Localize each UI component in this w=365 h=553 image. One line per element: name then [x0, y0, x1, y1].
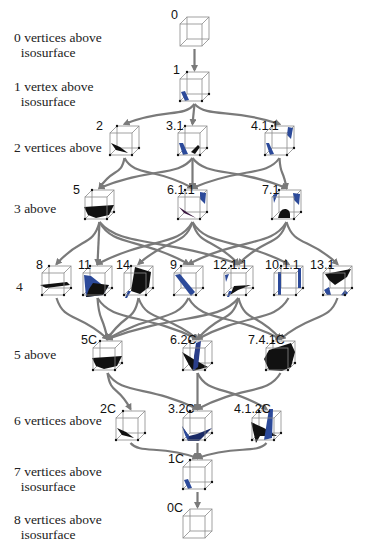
isosurface-patch [264, 343, 295, 371]
vertex-dot [211, 481, 213, 483]
vertex-dot [182, 488, 184, 490]
vertex-dot [206, 147, 208, 149]
vertex-dot [144, 432, 146, 434]
cube-depth-edge [196, 266, 203, 273]
vertex-dot [177, 218, 179, 220]
case-label-7.4.1C: 7.4.1C [248, 333, 285, 347]
cube-case-12.1.1: 12.1.1 [213, 258, 254, 297]
vertex-dot [293, 218, 295, 220]
cube-depth-edge [110, 126, 117, 133]
vertex-dot [199, 154, 201, 156]
vertex-dot [116, 125, 118, 127]
cube-depth-edge [180, 17, 187, 24]
isosurface-patch [278, 272, 281, 295]
row-label-r4: 4 [16, 279, 23, 294]
isosurface-patch [40, 282, 70, 288]
cube-case-1: 1 [173, 63, 210, 102]
vertex-dot [152, 287, 154, 289]
cube-case-4.1.2C: 4.1.2C [234, 402, 282, 443]
vertex-dot [202, 287, 204, 289]
vertex-dot [287, 369, 289, 371]
vertex-dot [145, 294, 147, 296]
cube-case-1C: 1C [168, 452, 213, 490]
cube-depth-edge [202, 17, 209, 24]
cube-case-3.1: 3.1 [166, 119, 208, 156]
arrow-1-to-2 [125, 104, 195, 124]
cube-depth-edge [183, 531, 190, 538]
vertex-dot [271, 218, 273, 220]
cube-depth-edge [42, 288, 49, 295]
isosurface-patch [125, 291, 131, 298]
row-label-r0: 0 vertices above isosurface [14, 30, 102, 60]
row-label-r7: 7 vertices above isosurface [14, 464, 102, 494]
cube-case-13.1: 13.1 [310, 258, 353, 296]
cube-depth-edge [85, 190, 92, 197]
isosurface-patch [179, 207, 196, 218]
vertex-dot [294, 362, 296, 364]
vertex-dot [115, 439, 117, 441]
vertex-dot [208, 93, 210, 95]
case-label-2: 2 [96, 119, 103, 133]
case-label-3.2C: 3.2C [168, 402, 194, 416]
vertex-dot [201, 100, 203, 102]
case-label-3.1: 3.1 [166, 119, 183, 133]
cube-depth-edge [274, 433, 281, 440]
vertex-dot [130, 265, 132, 267]
cube-case-4.1.1: 4.1.1 [251, 119, 295, 156]
arrow-4.1.2C-to-1C [198, 443, 267, 458]
cube-case-10.1.1: 10.1.1 [265, 258, 304, 296]
cube-case-6.1.1: 6.1.1 [167, 183, 208, 220]
cube-depth-edge [183, 509, 190, 516]
vertex-dot [113, 211, 115, 213]
vertex-dot [273, 294, 275, 296]
vertex-dot [273, 439, 275, 441]
cube-depth-edge [202, 72, 209, 79]
vertex-dot [189, 459, 191, 461]
arrow-13.1-to-7.4.1C [281, 298, 338, 339]
isosurface-patch [191, 145, 200, 154]
vertex-dot [322, 294, 324, 296]
vertex-dot [123, 294, 125, 296]
cube-depth-edge [205, 531, 212, 538]
cube-depth-edge [205, 341, 212, 348]
vertex-dot [137, 439, 139, 441]
vertex-dot [99, 340, 101, 342]
case-label-5: 5 [73, 183, 80, 197]
row-label-r8: 8 vertices above isosurface [14, 512, 102, 542]
cube-depth-edge [202, 39, 209, 46]
vertex-dot [204, 488, 206, 490]
vertex-dot [195, 294, 197, 296]
vertex-dot [82, 294, 84, 296]
vertex-dot [300, 211, 302, 213]
isosurface-patch [175, 274, 195, 296]
cube-depth-edge [180, 39, 187, 46]
vertex-dot [111, 287, 113, 289]
vertex-dot [179, 100, 181, 102]
cube-depth-edge [205, 509, 212, 516]
cube-depth-edge [115, 341, 122, 348]
cube-case-11: 11 [78, 258, 113, 297]
case-label-10.1.1: 10.1.1 [265, 258, 300, 272]
cube-depth-edge [200, 126, 207, 133]
cube-depth-edge [246, 288, 253, 295]
row-label-r3: 3 above [14, 201, 56, 216]
case-label-2C: 2C [100, 402, 116, 416]
cube-case-6.2C: 6.2C [170, 333, 213, 371]
vertex-dot [204, 439, 206, 441]
vertex-dot [92, 369, 94, 371]
cube-depth-edge [64, 288, 71, 295]
cube-depth-edge [132, 126, 139, 133]
cube-case-5: 5 [73, 183, 115, 220]
vertex-dot [245, 294, 247, 296]
isosurface-patch [200, 192, 206, 204]
row-label-r5: 5 above [14, 347, 56, 362]
vertex-dot [84, 218, 86, 220]
cube-case-2: 2 [96, 119, 140, 156]
vertex-dot [302, 287, 304, 289]
vertex-dot [41, 294, 43, 296]
case-label-9: 9 [170, 258, 177, 272]
cube-case-0C: 0C [167, 501, 212, 538]
vertex-dot [280, 432, 282, 434]
vertex-dot [186, 71, 188, 73]
isosurface-patch [287, 127, 293, 139]
